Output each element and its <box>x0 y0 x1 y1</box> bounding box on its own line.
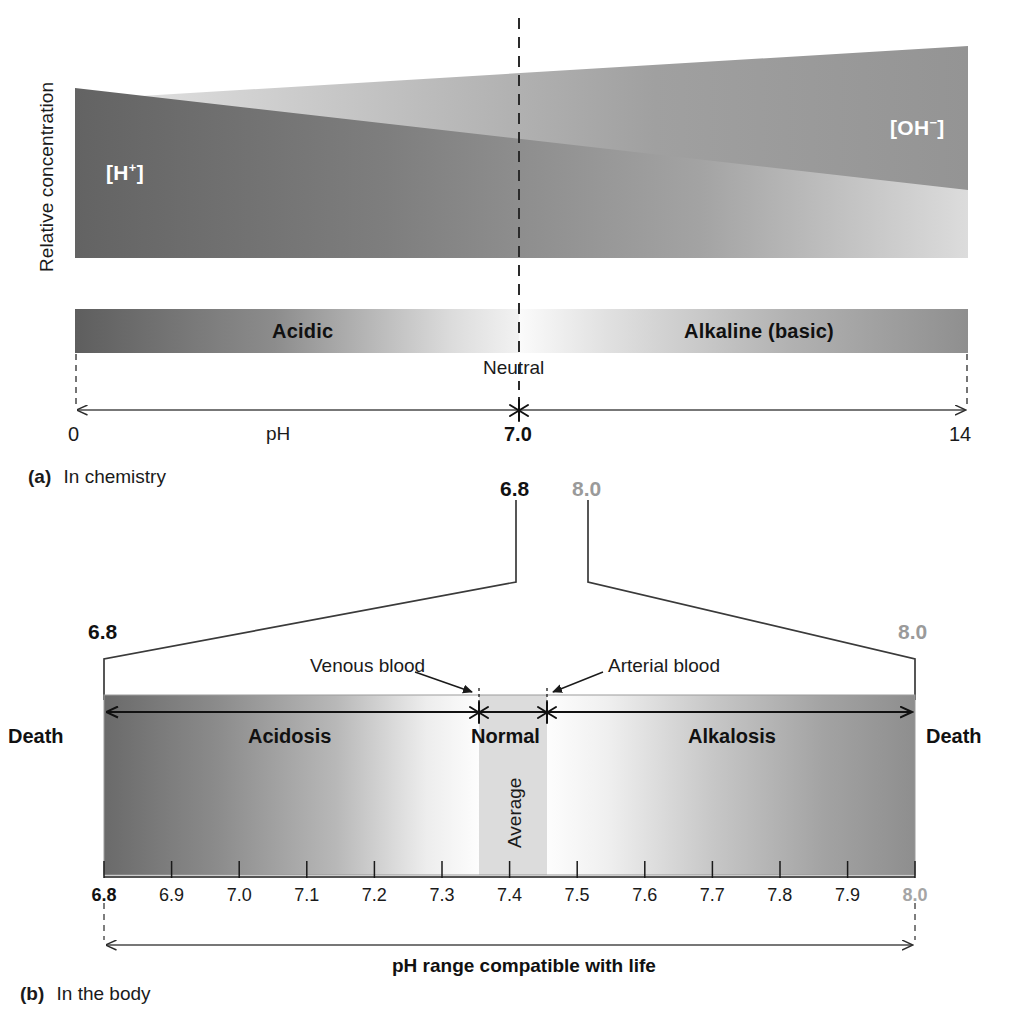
panel-b-tick-label: 7.0 <box>227 885 252 906</box>
death-label-right: Death <box>926 725 982 748</box>
panel-b-tick-label: 6.8 <box>91 885 116 906</box>
panel-b-tick-label: 7.6 <box>632 885 657 906</box>
panel-b-caption: (b) In the body <box>20 983 151 1005</box>
panel-b-tick-label: 7.8 <box>767 885 792 906</box>
panel-a-caption-marker: (a) <box>28 466 51 487</box>
callout-bottom-left-value: 6.8 <box>88 620 117 644</box>
h-plus-label-tail: ] <box>137 161 144 184</box>
callout-bottom-right-value: 8.0 <box>898 620 927 644</box>
panel-b-tick-label: 7.9 <box>835 885 860 906</box>
panel-b-tick-label: 7.3 <box>429 885 454 906</box>
neutral-label: Neutral <box>483 357 544 379</box>
relative-concentration-axis-label: Relative concentration <box>36 82 58 272</box>
oh-minus-wedge-label: [OH−] <box>890 115 945 140</box>
ph-axis-neutral-value-label: 7.0 <box>504 423 532 446</box>
oh-minus-label-base: [OH <box>890 116 929 139</box>
panel-b-tick-label: 6.9 <box>159 885 184 906</box>
callout-top-right-value: 8.0 <box>572 477 601 501</box>
average-band-label: Average <box>504 778 526 848</box>
death-label-left: Death <box>8 725 64 748</box>
panel-b-tick-label: 7.4 <box>497 885 522 906</box>
panel-b-acidosis-region <box>104 695 479 875</box>
acidic-band-label: Acidic <box>272 320 333 343</box>
ph-axis-name-label: pH <box>266 423 290 445</box>
panel-b-alkalosis-region <box>547 695 915 875</box>
panel-b-tick-label: 7.7 <box>700 885 725 906</box>
panel-a-caption-text: In chemistry <box>64 466 166 487</box>
ph-range-compatible-with-life-label: pH range compatible with life <box>392 955 656 977</box>
h-plus-label-base: [H <box>106 161 129 184</box>
alkaline-band-label: Alkaline (basic) <box>684 320 834 343</box>
h-plus-label-charge: + <box>129 160 137 175</box>
ph-axis-max-label: 14 <box>949 423 971 446</box>
arterial-blood-annotation-label: Arterial blood <box>608 655 720 677</box>
panel-b-caption-marker: (b) <box>20 983 44 1004</box>
venous-blood-annotation-label: Venous blood <box>310 655 425 677</box>
oh-minus-label-tail: ] <box>937 116 944 139</box>
panel-b-caption-text: In the body <box>57 983 151 1004</box>
figure-graphics <box>0 0 1018 1011</box>
acidosis-zone-label: Acidosis <box>248 725 331 748</box>
arterial-blood-leader <box>553 672 603 692</box>
panel-b-tick-label: 7.5 <box>565 885 590 906</box>
h-plus-wedge-label: [H+] <box>106 160 144 185</box>
alkalosis-zone-label: Alkalosis <box>688 725 776 748</box>
ph-axis-min-label: 0 <box>68 423 79 446</box>
panel-b-tick-label: 7.2 <box>362 885 387 906</box>
callout-top-left-value: 6.8 <box>500 477 529 501</box>
panel-b-tick-label: 7.1 <box>294 885 319 906</box>
normal-zone-label: Normal <box>471 725 540 748</box>
panel-b-tick-label: 8.0 <box>902 885 927 906</box>
figure-root: Relative concentration [H+] [OH−] Acidic… <box>0 0 1018 1011</box>
panel-a-caption: (a) In chemistry <box>28 466 166 488</box>
